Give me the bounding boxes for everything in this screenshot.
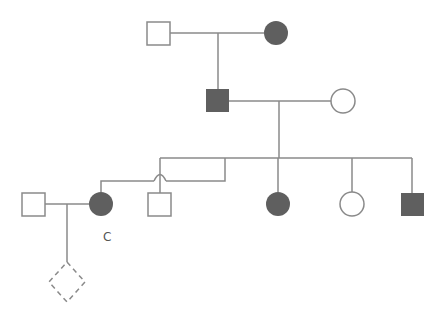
gen3-spouse-male-square	[22, 193, 45, 216]
proband-connector-line	[101, 181, 154, 192]
gen4-unborn-diamond	[49, 262, 85, 302]
gen1-male-square	[147, 22, 170, 45]
pedigree-diagram: C	[0, 0, 444, 315]
gen2-female-circle	[331, 89, 355, 113]
gen3-female-2-circle-affected	[266, 192, 290, 216]
gen3-female-3-circle	[340, 192, 364, 216]
pedigree-chart	[0, 0, 444, 315]
gen3-female-c-circle-affected	[89, 192, 113, 216]
gen3-male-1-square	[148, 193, 171, 216]
gen2-male-square-affected	[206, 89, 229, 112]
twin-connector-line	[166, 158, 225, 181]
proband-label: C	[103, 230, 111, 244]
gen1-female-circle-affected	[264, 21, 288, 45]
gen3-male-4-square-affected	[401, 193, 424, 216]
